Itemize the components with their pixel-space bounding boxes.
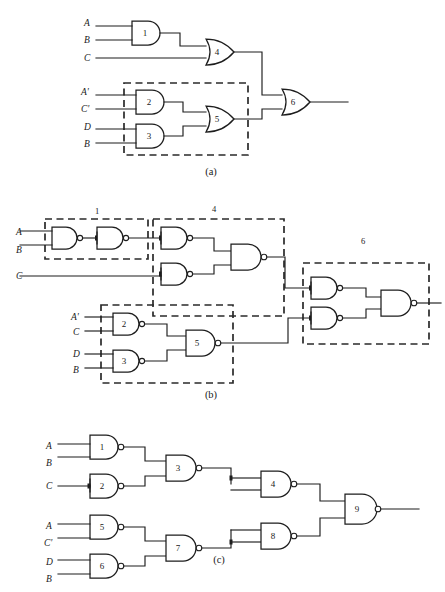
- label-c-input-A: A: [45, 441, 52, 451]
- caption-b: (b): [205, 389, 218, 401]
- gate-b6b-nand: [311, 307, 343, 329]
- gate-c9-number: 9: [355, 504, 360, 514]
- box-label-6: 6: [361, 236, 365, 246]
- gate-c7-number: 7: [176, 543, 181, 553]
- wire-c5-to-c7: [124, 527, 166, 541]
- label-b-input-Aprime: A': [70, 312, 80, 322]
- gate-b4c-nand: [231, 244, 267, 270]
- label-b-input-B2: B: [73, 365, 79, 375]
- wire-b4b-to-b4c: [193, 265, 231, 274]
- gate-5-number: 5: [215, 114, 220, 124]
- gate-c8-nand: 8: [261, 523, 297, 549]
- label-c-input-D: D: [45, 557, 53, 567]
- gate-4-or: 4: [206, 39, 234, 65]
- gate-b3-nand: 3: [113, 350, 145, 372]
- label-input-Aprime: A': [80, 87, 90, 97]
- gate-c6-nand: 6: [90, 554, 124, 578]
- junction-c4: [230, 476, 233, 481]
- junction-c2: [88, 484, 91, 489]
- panel-c: A B C A C' D B 1 2 3: [44, 435, 419, 584]
- label-input-D: D: [83, 122, 91, 132]
- wire-c1-to-c3: [124, 447, 166, 461]
- gate-5-or: 5: [206, 106, 234, 132]
- label-input-A: A: [83, 18, 90, 28]
- wire-c8-to-c9: [297, 518, 345, 536]
- gate-c4-nand: 4: [261, 471, 297, 497]
- gate-b5-number: 5: [195, 338, 200, 348]
- gate-b2-number: 2: [122, 319, 127, 329]
- gate-2-number: 2: [147, 97, 152, 107]
- gate-b4a-nand: [161, 227, 193, 249]
- wire-b4-out-to-b6a: [267, 257, 311, 288]
- gate-c9-nand: 9: [345, 494, 381, 524]
- label-input-B: B: [84, 35, 90, 45]
- gate-b5-nand: 5: [186, 330, 221, 356]
- gate-6-or: 6: [282, 89, 310, 115]
- label-c-input-B: B: [46, 458, 52, 468]
- wire-b5-to-b6b: [221, 318, 311, 343]
- gate-1-and: 1: [132, 21, 160, 45]
- gate-c7-nand: 7: [166, 535, 202, 561]
- gate-c2-nand: 2: [90, 474, 124, 498]
- wire-b3-to-b5: [145, 350, 186, 361]
- junction-c8: [230, 540, 233, 545]
- gate-c8-number: 8: [271, 531, 276, 541]
- label-b-input-B: B: [16, 245, 22, 255]
- gate-2-and: 2: [136, 90, 164, 114]
- logic-circuit-figure: A B C A' C' D B 1 4 2: [0, 0, 445, 592]
- wire-c3-to-c4: [202, 468, 231, 484]
- wire-c2-to-c3: [124, 476, 166, 486]
- label-input-Cprime: C': [81, 104, 90, 114]
- wire-gate3-to-gate5: [164, 126, 206, 136]
- gate-3-number: 3: [147, 131, 152, 141]
- wire-gate5-to-gate6: [234, 109, 282, 119]
- figure-root: A B C A' C' D B 1 4 2: [0, 0, 445, 592]
- gate-c4-number: 4: [271, 479, 276, 489]
- gate-3-and: 3: [136, 124, 164, 148]
- gate-b1a-nand: [52, 227, 83, 249]
- gate-b6c-nand: [381, 290, 417, 316]
- junction-b4b: [159, 272, 162, 277]
- wire-gate2-to-gate5: [164, 102, 206, 112]
- gate-c5-nand: 5: [90, 515, 124, 539]
- wire-gate1-to-gate4: [160, 33, 206, 46]
- wire-b6b-to-b6c: [343, 309, 381, 318]
- gate-c3-nand: 3: [166, 455, 202, 481]
- gate-c1-nand: 1: [90, 435, 124, 459]
- gate-b1b-nand: [97, 227, 129, 249]
- wire-c6-to-c7: [124, 556, 166, 566]
- panel-a: A B C A' C' D B 1 4 2: [80, 18, 348, 178]
- box-label-1: 1: [95, 206, 99, 216]
- label-c-input-A2: A: [45, 521, 52, 531]
- gate-1-number: 1: [143, 28, 148, 38]
- gate-c1-number: 1: [100, 442, 105, 452]
- gate-b4b-nand: [161, 263, 193, 285]
- gate-4-number: 4: [215, 47, 220, 57]
- wire-b6a-to-b6c: [343, 288, 381, 297]
- gate-c5-number: 5: [100, 522, 105, 532]
- wire-c7-to-c8: [202, 530, 231, 548]
- gate-b6a-nand: [311, 277, 343, 299]
- gate-b2-nand: 2: [113, 313, 145, 335]
- wire-gate4-to-gate6: [234, 52, 282, 95]
- gate-6-number: 6: [291, 97, 296, 107]
- gate-c2-number: 2: [100, 481, 105, 491]
- wire-c4-to-c9: [297, 484, 345, 501]
- gate-c6-number: 6: [100, 561, 105, 571]
- box-label-4: 4: [212, 204, 217, 214]
- label-c-input-B2: B: [46, 574, 52, 584]
- wire-b4a-to-b4c: [193, 238, 231, 251]
- gate-b3-number: 3: [122, 356, 127, 366]
- panel-b: 1 4 6 A B C A' C D B: [15, 204, 441, 401]
- label-c-input-C: C: [46, 481, 53, 491]
- caption-c: (c): [213, 554, 225, 566]
- label-b-input-A: A: [15, 227, 22, 237]
- wire-b2-to-b5: [145, 324, 186, 336]
- label-input-B2: B: [84, 139, 90, 149]
- label-input-C: C: [84, 53, 91, 63]
- label-c-input-Cprime: C': [44, 538, 53, 548]
- label-b-input-D: D: [72, 349, 80, 359]
- caption-a: (a): [205, 166, 217, 178]
- label-b-input-C2: C: [73, 327, 80, 337]
- gate-c3-number: 3: [176, 463, 181, 473]
